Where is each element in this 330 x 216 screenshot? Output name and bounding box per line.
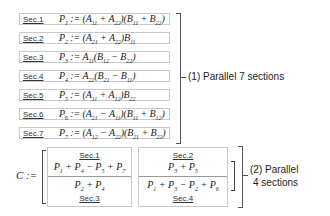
- section-formula: P7 := (A12 − A22)(B21 + B22): [59, 127, 166, 140]
- section-label: Sec.3: [20, 53, 59, 62]
- section-label: Sec.4: [20, 72, 59, 81]
- section-row-1: Sec.1 P1 := (A11 + A22)(B11 + B22): [19, 13, 170, 25]
- section-row-7: Sec.7 P7 := (A12 − A22)(B21 + B22): [19, 127, 170, 139]
- matrix-divider: [139, 176, 227, 177]
- section-formula: P6 := (A21 − A11)(B11 + B12): [59, 108, 165, 121]
- section-row-2: Sec.2 P2 := (A21 + A22)B11: [19, 32, 170, 44]
- section-formula: P1 := (A11 + A22)(B11 + B22): [59, 13, 165, 26]
- matrix-right-bracket: [231, 161, 235, 191]
- section-formula: P2 := (A21 + A22)B11: [59, 32, 135, 45]
- cell-formula-sec2: P3 + P5: [139, 161, 227, 174]
- matrix-column-right: Sec.2 P3 + P5 P1 + P3 − P2 + P6 Sec.4: [138, 147, 228, 207]
- section-formula: P4 := A22(B21 − B11): [59, 70, 135, 83]
- section-label: Sec.6: [20, 110, 59, 119]
- matrix-divider: [48, 176, 131, 177]
- stage1-bracket-tick: [181, 77, 186, 78]
- stage1-bracket: [176, 13, 181, 144]
- section-row-6: Sec.6 P6 := (A21 − A11)(B11 + B12): [19, 108, 170, 120]
- section-label: Sec.2: [20, 34, 59, 43]
- cell-formula-sec1: P1 + P4 − P5 + P7: [48, 161, 131, 174]
- matrix-left-bracket: [42, 150, 46, 204]
- stage2-bracket-tick: [243, 175, 248, 176]
- matrix-prefix: C :=: [16, 169, 37, 181]
- cell-formula-sec3: P2 + P4: [48, 179, 131, 192]
- cell-label-sec2: Sec.2: [139, 151, 227, 160]
- stage2-label-line2: 4 sections: [253, 177, 298, 189]
- stage2-label-line1: (2) Parallel: [250, 164, 298, 176]
- section-label: Sec.7: [20, 129, 59, 138]
- stage1-label: (1) Parallel 7 sections: [188, 71, 284, 83]
- section-label: Sec.5: [20, 91, 59, 100]
- stage2-bracket: [238, 146, 243, 208]
- cell-label-sec1: Sec.1: [48, 151, 131, 160]
- section-row-5: Sec.5 P5 := (A11 + A12)B22: [19, 89, 170, 101]
- section-row-4: Sec.4 P4 := A22(B21 − B11): [19, 70, 170, 82]
- cell-formula-sec4: P1 + P3 − P2 + P6: [139, 179, 227, 192]
- section-formula: P5 := (A11 + A12)B22: [59, 89, 135, 102]
- section-row-3: Sec.3 P3 := A11(B12 − B22): [19, 51, 170, 63]
- section-formula: P3 := A11(B12 − B22): [59, 51, 135, 64]
- cell-label-sec3: Sec.3: [48, 194, 131, 203]
- cell-label-sec4: Sec.4: [139, 194, 227, 203]
- section-label: Sec.1: [20, 15, 59, 24]
- matrix-column-left: Sec.1 P1 + P4 − P5 + P7 P2 + P4 Sec.3: [47, 147, 132, 207]
